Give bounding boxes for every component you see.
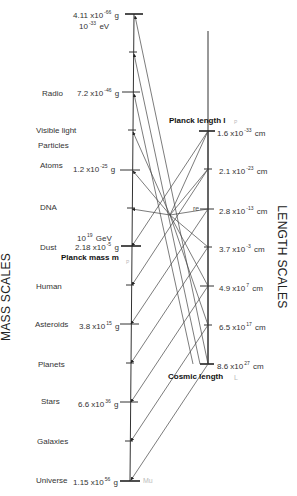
length-value-5: 4.9 x107 cm [219, 282, 263, 293]
mass-label-stars: Stars [41, 397, 60, 406]
mass-value-stars: 6.6 x1036 g [78, 398, 119, 409]
universe-mass-subscript: Mu [143, 477, 153, 484]
classical-electron-radius-tag: re [193, 205, 199, 212]
mass-label-visible-light: Visible light [36, 126, 76, 135]
mass-label-galaxies: Galaxies [37, 437, 68, 446]
length-value-3: 2.8 x10-13 cm [219, 205, 267, 216]
length-value-2: 2.1 x10-23 cm [219, 165, 267, 176]
mass-label-dust: Dust [40, 243, 56, 252]
mass-label-atoms: Atoms [40, 161, 63, 170]
mass-label-planets: Planets [38, 360, 65, 369]
mass-extra-top: 10-33 eV [79, 20, 109, 31]
mass-value-atoms: 1.2 x10-25 g [73, 163, 115, 174]
length-value-4: 3.7 x10-3 cm [219, 243, 265, 254]
mass-label-asteroids: Asteroids [35, 320, 68, 329]
mass-value-radio: 7.2 x10-46 g [77, 87, 119, 98]
mass-value-asteroids: 3.8 x1015 g [79, 320, 120, 331]
planck-length-label: Planck length l [169, 116, 225, 125]
cosmic-length-label: Cosmic length [168, 372, 223, 381]
mass-label-universe: Universe [36, 476, 68, 485]
mass-scales-title: MASS SCALES [0, 253, 13, 341]
mass-label-dna: DNA [40, 203, 57, 212]
planck-mass-subscript: P [126, 259, 129, 265]
mass-value-universe: 1.15 x1056 g [73, 476, 118, 487]
mass-label-particles: Particles [38, 141, 69, 150]
planck-mass-label: Planck mass m [61, 253, 119, 262]
mass-label-human: Human [36, 282, 62, 291]
length-value-1: 1.6 x10-33 cm [217, 127, 265, 138]
mass-label-radio: Radio [42, 89, 63, 98]
planck-length-subscript: P [234, 119, 237, 125]
length-value-7: 8.6 x1027 cm [217, 360, 264, 371]
mass-value-top: 4.11 x10-66 g [73, 9, 119, 20]
cosmic-length-subscript: L [234, 374, 238, 381]
length-scales-title: LENGTH SCALES [275, 205, 289, 308]
mass-value-dust: 2.18 x10-5 g [75, 241, 119, 252]
length-value-6: 6.5 x1017 cm [219, 321, 266, 332]
